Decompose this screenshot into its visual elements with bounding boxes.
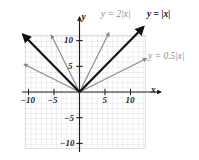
x-axis-label: x (151, 86, 156, 96)
function-label-half-abs: y = 0.5|x| (148, 52, 185, 62)
x-tick-label-neg5: −5 (48, 96, 58, 105)
function-label-two-abs: y = 2|x| (101, 10, 131, 20)
function-label-abs: y = |x| (147, 10, 170, 20)
x-tick-label-neg10: −10 (21, 96, 35, 105)
x-tick-label-pos5: 5 (103, 96, 108, 105)
y-tick-label-pos10: 10 (64, 36, 73, 45)
x-tick-label-pos10: 10 (126, 96, 135, 105)
y-tick-label-neg5: −5 (64, 114, 74, 123)
y-axis-label: y (82, 13, 86, 23)
graph-canvas (0, 0, 199, 160)
y-tick-label-neg10: −10 (60, 139, 74, 148)
absolute-value-graph-figure: x y −10 −5 5 10 10 5 −5 −10 y = 2|x| y =… (0, 0, 199, 160)
y-tick-label-pos5: 5 (68, 62, 73, 71)
